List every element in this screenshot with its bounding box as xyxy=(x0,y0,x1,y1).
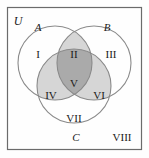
region-iv-label: IV xyxy=(45,89,57,101)
set-a-label: A xyxy=(34,21,42,33)
region-v-label: V xyxy=(70,77,78,89)
region-i-label: I xyxy=(36,48,40,60)
region-ii-label: II xyxy=(70,48,78,60)
region-viii-label: VIII xyxy=(113,131,132,143)
region-iii-label: III xyxy=(106,48,117,60)
region-vi-label: VI xyxy=(93,89,105,101)
set-b-label: B xyxy=(104,21,111,33)
region-vii-label: VII xyxy=(66,112,82,124)
venn-diagram-canvas: U A B C I II III IV V VI VII VIII xyxy=(0,0,149,158)
venn-diagram-figure: U A B C I II III IV V VI VII VIII xyxy=(0,0,149,158)
set-c-label: C xyxy=(72,131,80,143)
universe-label: U xyxy=(14,14,24,28)
